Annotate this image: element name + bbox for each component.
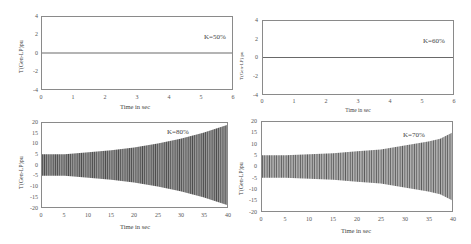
chart-k80: K=80% 20 15 10 5 0 -5 -10 -15 -20 0 5 10… [0, 115, 235, 244]
xtick: 0 [254, 98, 270, 104]
xtick: 15 [103, 212, 119, 218]
ytick: 0 [242, 54, 258, 60]
xtick: 25 [373, 216, 389, 222]
ytick: 2 [242, 36, 258, 42]
x-axis-label: Time in sec [110, 103, 160, 110]
xtick: 40 [445, 216, 461, 222]
xtick: 30 [173, 212, 189, 218]
xtick: 1 [286, 98, 302, 104]
plot-area: K=80% [41, 122, 228, 208]
x-axis-label: Time in sec [333, 107, 383, 113]
xtick: 4 [161, 94, 177, 100]
xtick: 0 [33, 212, 49, 218]
xtick: 3 [350, 98, 366, 104]
y-axis-label: T(Gen-LP) pu [239, 52, 244, 80]
trace [263, 21, 453, 94]
plot-area: K=70% [261, 121, 453, 212]
ytick: -2 [22, 68, 38, 74]
xtick: 35 [421, 216, 437, 222]
ytick: -5 [22, 172, 38, 178]
annotation: K=60% [423, 37, 445, 45]
ytick: -15 [22, 194, 38, 200]
xtick: 10 [301, 216, 317, 222]
ytick: 5 [241, 152, 257, 158]
xtick: 15 [325, 216, 341, 222]
y-axis-label: T(Gen-LP)pu [18, 40, 24, 73]
plot-area: K=60% [262, 20, 454, 95]
ytick: 4 [22, 13, 38, 19]
y-axis-label: T(Gen-LP)pu [18, 156, 24, 189]
x-axis-label: Time in sec [331, 227, 381, 234]
xtick: 3 [129, 94, 145, 100]
xtick: 10 [80, 212, 96, 218]
ytick: -20 [22, 205, 38, 211]
annotation: K=80% [167, 128, 189, 136]
trace [42, 123, 227, 207]
ytick: -4 [22, 87, 38, 93]
ytick: 2 [22, 31, 38, 37]
xtick: 0 [33, 94, 49, 100]
ytick: 10 [22, 140, 38, 146]
chart-k70: K=70% 20 15 10 5 0 -5 -10 -15 -20 0 5 10… [235, 115, 471, 244]
xtick: 2 [318, 98, 334, 104]
xtick: 0 [253, 216, 269, 222]
y-axis-label: T(Gen-LP)pu [238, 162, 244, 195]
xtick: 1 [65, 94, 81, 100]
xtick: 5 [277, 216, 293, 222]
ytick: 0 [22, 50, 38, 56]
xtick: 6 [446, 98, 462, 104]
ytick: 15 [22, 130, 38, 136]
ytick: -2 [242, 73, 258, 79]
ytick: 20 [241, 118, 257, 124]
ytick: -15 [241, 197, 257, 203]
xtick: 20 [126, 212, 142, 218]
ytick: 0 [22, 162, 38, 168]
xtick: 20 [349, 216, 365, 222]
xtick: 40 [220, 212, 236, 218]
plot-area: K=50% [41, 16, 233, 90]
ytick: 20 [22, 119, 38, 125]
xtick: 35 [196, 212, 212, 218]
xtick: 5 [56, 212, 72, 218]
xtick: 30 [397, 216, 413, 222]
ytick: 4 [242, 17, 258, 23]
xtick: 5 [414, 98, 430, 104]
ytick: -20 [241, 209, 257, 215]
annotation: K=50% [204, 33, 226, 41]
xtick: 25 [150, 212, 166, 218]
xtick: 5 [193, 94, 209, 100]
chart-k50: K=50% 4 2 0 -2 -4 0 1 2 3 4 5 6 Time in … [0, 0, 235, 115]
xtick: 2 [97, 94, 113, 100]
ytick: -10 [22, 183, 38, 189]
chart-k60: K=60% 4 2 0 -2 -4 0 1 2 3 4 5 6 Time in … [235, 0, 471, 115]
x-axis-label: Time in sec [110, 223, 160, 230]
annotation: K=70% [403, 131, 425, 139]
ytick: 5 [22, 151, 38, 157]
ytick: 10 [241, 141, 257, 147]
ytick: 15 [241, 129, 257, 135]
xtick: 4 [382, 98, 398, 104]
trace [42, 17, 232, 89]
